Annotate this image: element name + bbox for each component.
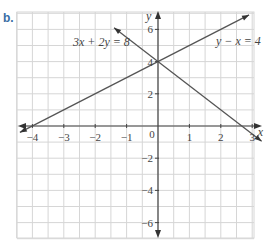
equation-label: 3x + 2y = 8 [72, 35, 130, 49]
y-axis-arrow-icon [155, 230, 161, 238]
y-tick-label: −2 [141, 152, 153, 164]
y-tick-label: 2 [148, 88, 154, 100]
x-tick-label: −1 [121, 131, 133, 143]
tick-labels: −4−3−2−11230−6−4−2246xy3x + 2y = 8y − x … [27, 9, 264, 229]
y-tick-label: −4 [141, 184, 153, 196]
y-tick-label: 6 [148, 23, 154, 35]
graph: −4−3−2−11230−6−4−2246xy3x + 2y = 8y − x … [0, 0, 268, 241]
x-tick-label: 1 [187, 131, 193, 143]
y-tick-label: 4 [148, 56, 154, 68]
y-tick-label: −6 [141, 217, 153, 229]
series-line [20, 15, 249, 133]
x-tick-label: −4 [27, 131, 39, 143]
x-tick-label: −3 [58, 131, 70, 143]
equation-label: y − x = 4 [215, 34, 261, 48]
origin-label: 0 [149, 128, 155, 140]
x-tick-label: −2 [89, 131, 101, 143]
arrowhead-icon [242, 15, 249, 21]
x-tick-label: 3 [249, 131, 255, 143]
x-tick-label: 2 [218, 131, 224, 143]
y-axis-label: y [145, 9, 152, 23]
x-axis-label: x [257, 125, 264, 139]
